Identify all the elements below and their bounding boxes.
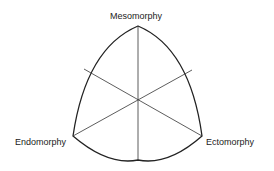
reuleaux-triangle-outline xyxy=(73,26,202,161)
label-endomorphy: Endomorphy xyxy=(15,138,66,147)
axis-endomorphy xyxy=(73,70,192,136)
label-ectomorphy: Ectomorphy xyxy=(206,138,254,147)
label-mesomorphy: Mesomorphy xyxy=(110,12,162,21)
axis-ectomorphy xyxy=(84,69,202,136)
